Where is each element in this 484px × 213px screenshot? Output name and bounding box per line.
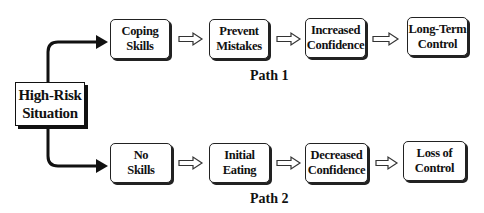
node-label-line2: Control [415,161,454,176]
hollow-arrow-icon [179,157,202,169]
node-increased-confidence: IncreasedConfidence [305,18,366,58]
node-high-risk-situation: High-Risk Situation [15,82,85,126]
node-label-line1: No [127,148,154,163]
node-label-line2: Confidence [307,38,364,53]
arrowhead-to-no-skills [96,159,108,173]
node-label-line1: Decreased [308,148,365,163]
node-label-line1: Loss of [415,146,454,161]
node-coping-skills: CopingSkills [110,19,170,59]
node-label-line1: High-Risk [18,86,81,104]
node-label-line1: Prevent [216,24,262,39]
node-long-term-control: Long-TermControl [407,17,468,56]
node-label-line2: Control [409,37,467,52]
hollow-arrow-icon [277,33,300,45]
node-label-line2: Skills [127,163,154,178]
node-loss-of-control: Loss ofControl [403,141,466,181]
node-prevent-mistakes: PreventMistakes [209,19,269,59]
hollow-arrow-icon [376,157,397,169]
node-label-line1: Long-Term [409,22,467,37]
node-label-line2: Situation [18,104,81,122]
hollow-arrow-icon [373,33,398,45]
node-initial-eating: InitialEating [209,143,270,183]
path-1-label: Path 1 [250,68,289,84]
node-decreased-confidence: DecreasedConfidence [305,143,368,183]
path-2-label: Path 2 [250,191,289,207]
node-no-skills: NoSkills [110,143,172,183]
node-label-line1: Increased [307,23,364,38]
node-label-line1: Initial [223,148,257,163]
hollow-arrow-icon [277,157,300,169]
connector-to-coping-skills [48,42,96,82]
arrowhead-to-coping-skills [96,35,108,49]
node-label-line1: Coping [121,24,158,39]
node-label-line2: Confidence [308,163,365,178]
node-label-line2: Skills [121,39,158,54]
node-label-line2: Eating [223,163,257,178]
hollow-arrow-icon [179,33,202,45]
connector-to-no-skills [48,126,96,166]
node-label-line2: Mistakes [216,39,262,54]
